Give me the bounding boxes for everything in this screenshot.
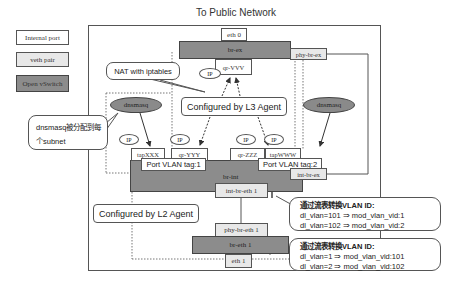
qr-zzz-ip: IP	[236, 134, 256, 145]
br-eth1-bridge: br-eth 1	[192, 236, 289, 254]
int-br-ex-port: int-br-ex	[290, 168, 327, 180]
vlan-outbound-callout: 通过流表转换VLAN ID: dl_vlan=1 ⇒ mod_vlan_vid:…	[289, 238, 441, 271]
dnsmasq-callout: dnsmasq被分配到每 个subnet	[28, 115, 108, 150]
legend-veth-pair: veth pair	[16, 52, 69, 67]
qr-vvv-ip: IP	[199, 68, 221, 79]
eth0-port: eth 0	[221, 28, 247, 41]
eth1-port: eth 1	[225, 254, 252, 268]
l2-agent-label: Configured by L2 Agent	[93, 204, 199, 223]
legend-internal-port: Internal port	[16, 30, 69, 45]
tap-www-ip: IP	[264, 134, 284, 145]
l3-agent-label: Configured by L3 Agent	[181, 97, 287, 116]
dnsmasq-left: dnsmasq	[110, 97, 162, 113]
port-vlan-tag-1: Port VLAN tag:1	[141, 158, 206, 171]
vlan-inbound-callout: 通过流表转换VLAN ID: dl_vlan=101 ⇒ mod_vlan_vi…	[289, 197, 441, 231]
vlan-outbound-rule-1: dl_vlan=1 ⇒ mod_vlan_vid:101	[300, 252, 440, 262]
br-ex-bridge: br-ex	[179, 41, 291, 59]
qr-yyy-ip: IP	[170, 134, 190, 145]
dnsmasq-callout-line-2: 个subnet	[36, 135, 107, 149]
vlan-inbound-rule-2: dl_vlan=102 ⇒ mod_vlan_vid:2	[300, 221, 440, 231]
nat-callout: NAT with iptables	[106, 62, 180, 80]
phy-br-eth1-port: phy-br-eth 1	[215, 223, 268, 237]
br-int-label: br-int	[223, 173, 238, 181]
vlan-inbound-heading: 通过流表转换VLAN ID:	[300, 201, 440, 211]
diagram-title: To Public Network	[196, 7, 276, 18]
dnsmasq-callout-line-1: dnsmasq被分配到每	[36, 121, 107, 135]
dnsmasq-right: dnsmasq	[303, 97, 355, 113]
tap-xxx-ip: IP	[119, 134, 139, 145]
vlan-outbound-rule-2: dl_vlan=2 ⇒ mod_vlan_vid:102	[300, 262, 440, 272]
vlan-outbound-heading: 通过流表转换VLAN ID:	[300, 242, 440, 252]
legend-open-vswitch: Open vSwitch	[16, 75, 69, 92]
phy-br-ex-port: phy-br-ex	[290, 48, 327, 60]
int-br-eth1-port: int-br-eth 1	[215, 183, 268, 198]
vlan-inbound-rule-1: dl_vlan=101 ⇒ mod_vlan_vid:1	[300, 211, 440, 221]
nat-callout-text: NAT with iptables	[114, 67, 172, 76]
